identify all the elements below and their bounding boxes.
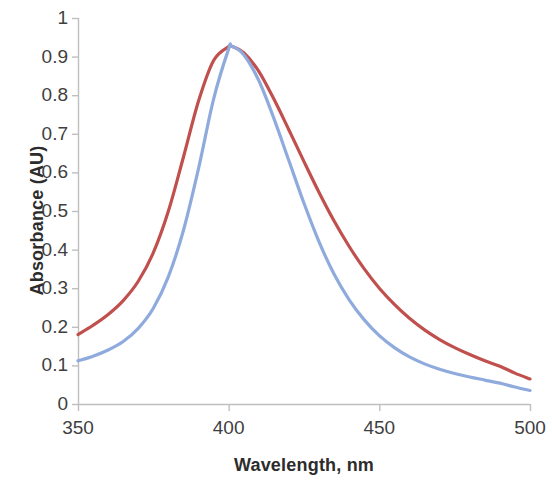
y-tick-label: 0 [8,394,68,413]
y-axis-ticks [72,19,78,405]
x-axis-title: Wavelength, nm [78,455,530,476]
plot-area [0,0,552,484]
x-tick-label: 400 [194,418,264,437]
y-tick-label: 1 [8,8,68,27]
data-series-line-1 [78,45,530,379]
data-series-layer [78,44,530,391]
y-tick-label: 0.1 [8,355,68,374]
x-tick-label: 500 [495,418,552,437]
y-axis-title: Absorbance (AU) [27,111,48,331]
y-tick-label: 0.8 [8,85,68,104]
y-tick-label: 0.9 [8,47,68,66]
x-tick-label: 350 [43,418,113,437]
x-tick-label: 450 [344,418,414,437]
absorbance-spectrum-chart: 10.90.80.70.60.50.40.30.20.10 3504004505… [0,0,552,484]
data-series-line-2 [78,44,530,391]
